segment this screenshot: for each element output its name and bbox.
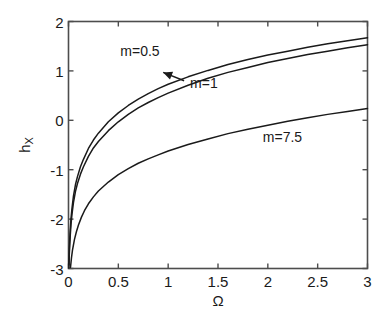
- y-tick-label-2: -1: [50, 162, 63, 177]
- x-tick-label-6: 3: [363, 274, 371, 289]
- y-axis-title: hX: [17, 137, 32, 153]
- y-tick-label-4: 1: [55, 63, 63, 78]
- m-1-label: m=1: [190, 76, 218, 90]
- curve-m-1: [69, 45, 368, 268]
- y-tick-label-5: 2: [55, 14, 63, 29]
- x-tick-label-3: 1.5: [208, 274, 229, 289]
- curve-m-7.5: [70, 108, 367, 267]
- x-tick-label-1: 0.5: [108, 274, 129, 289]
- axes-frame: [69, 22, 368, 269]
- y-tick-label-0: -3: [50, 261, 63, 276]
- data-curves: [69, 38, 368, 268]
- axes-box: [69, 22, 368, 269]
- annotation-arrow: [163, 72, 184, 81]
- y-axis-title-base: h: [16, 145, 33, 153]
- y-tick-label-3: 0: [55, 113, 63, 128]
- curve-m-0.5: [69, 38, 368, 265]
- x-axis-title: Ω: [212, 293, 223, 308]
- y-axis-title-subscript: X: [23, 137, 35, 144]
- x-tick-label-2: 1: [164, 274, 172, 289]
- m-7.5-label: m=7.5: [263, 130, 302, 144]
- x-tick-label-5: 2.5: [307, 274, 328, 289]
- x-tick-label-4: 2: [264, 274, 272, 289]
- y-tick-label-1: -2: [50, 212, 63, 227]
- axis-ticks: [69, 22, 368, 269]
- x-tick-label-0: 0: [64, 274, 72, 289]
- m-0.5-label: m=0.5: [120, 44, 159, 58]
